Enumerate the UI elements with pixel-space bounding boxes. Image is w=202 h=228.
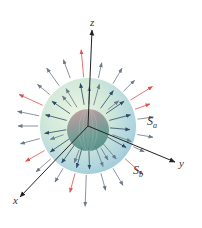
field-arrow [101,173,106,190]
field-arrow [135,104,150,109]
field-arrow [123,80,134,91]
field-arrow [19,95,43,106]
surface-sb-subscript: b [139,170,143,179]
field-arrow [26,151,45,162]
surface-sb-label: Sb [133,163,143,179]
field-arrow [63,60,70,78]
field-arrow [137,135,153,138]
field-arrow [70,173,75,192]
field-arrow [55,168,63,182]
field-arrow [81,50,83,77]
field-arrow [85,175,86,206]
field-arrow [47,68,60,86]
divergence-theorem-diagram: z y x Sa Sb [0,0,202,228]
field-arrow [18,111,40,115]
z-axis-label: z [89,16,95,28]
field-arrow [20,139,39,144]
field-arrow [36,159,51,172]
field-arrow [113,168,123,185]
y-axis-label: y [178,157,184,169]
field-arrow [130,87,152,101]
diagram-svg: z y x Sa Sb [0,0,202,228]
field-arrow [113,68,122,83]
field-arrow [37,84,49,94]
surface-sa-label: Sa [147,114,157,130]
x-axis-label: x [12,194,18,206]
field-arrow [98,63,101,78]
surface-sa-subscript: a [153,121,157,130]
